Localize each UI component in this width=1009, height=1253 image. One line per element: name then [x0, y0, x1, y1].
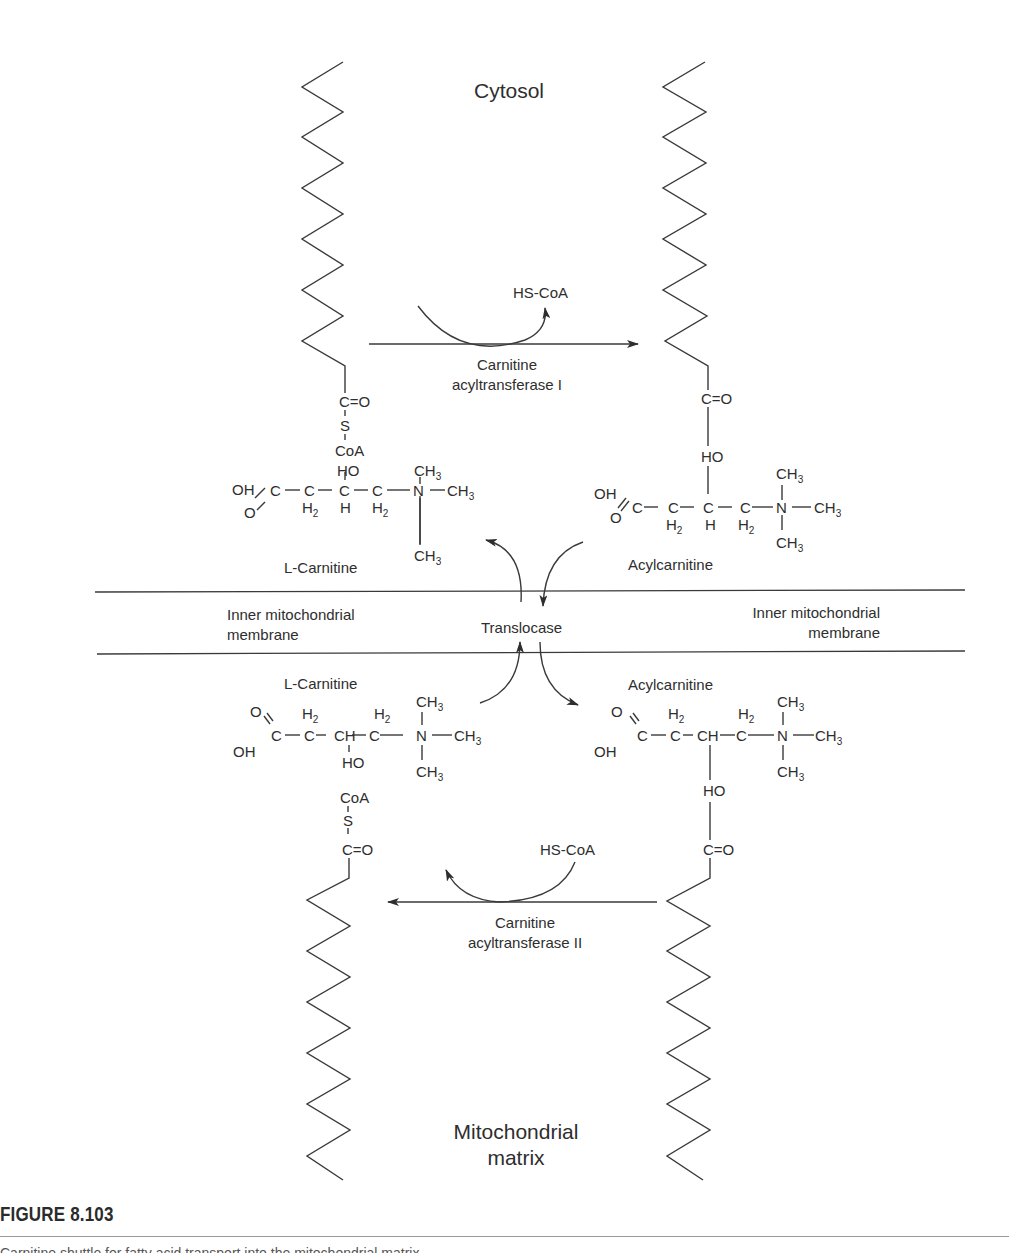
atom-n: N [416, 728, 427, 743]
atom-c: C [271, 728, 282, 743]
enzyme-cat1-line1: Carnitine [412, 355, 602, 375]
atom-h2: H2 [738, 517, 754, 532]
membrane-label-right: Inner mitochondrial membrane [705, 603, 880, 643]
atom-ch3: CH3 [447, 483, 474, 498]
atom-ch3: CH3 [414, 548, 441, 563]
matrix-acyl-coa-carbonyl: C=O [342, 842, 373, 857]
atom-ch3: CH3 [814, 500, 841, 515]
hs-coa-label-cat2: HS-CoA [540, 842, 595, 857]
enzyme-cat2-line2: acyltransferase II [430, 933, 620, 953]
atom-c: C [304, 728, 315, 743]
atom-ch3: CH3 [777, 764, 804, 779]
atom-ch: CH [697, 728, 719, 743]
enzyme-cat2: Carnitine acyltransferase II [430, 913, 620, 953]
atom-c: C [740, 500, 751, 515]
atom-c: C [668, 500, 679, 515]
atom-h: H [705, 517, 716, 532]
atom-ch3: CH3 [777, 694, 804, 709]
figure-caption: Carnitine shuttle for fatty acid transpo… [0, 1246, 423, 1253]
acyl-coa-carbonyl: C=O [339, 394, 370, 409]
acylcarnitine-cytosol-label: Acylcarnitine [628, 557, 713, 572]
atom-ch3: CH3 [414, 463, 441, 478]
atom-ch3: CH3 [454, 728, 481, 743]
atom-c: C [372, 483, 383, 498]
matrix-label-line2: matrix [450, 1147, 582, 1168]
atom-n: N [777, 728, 788, 743]
atom-ch3: CH3 [815, 728, 842, 743]
acyl-chain-matrix-left [307, 858, 350, 1180]
atom-c: C [703, 500, 714, 515]
atom-ch: CH [334, 728, 356, 743]
atom-c: C [270, 483, 281, 498]
matrix-acyl-coa-coa: CoA [340, 790, 369, 805]
atom-ch3: CH3 [416, 694, 443, 709]
atom-c: C [736, 728, 747, 743]
atom-ho: HO [337, 463, 360, 478]
atom-c: C [637, 728, 648, 743]
atom-n: N [413, 483, 424, 498]
enzyme-cat1: Carnitine acyltransferase I [412, 355, 602, 395]
cytosol-label: Cytosol [474, 80, 544, 101]
figure-divider [0, 1236, 1009, 1237]
l-carnitine-matrix-label: L-Carnitine [284, 676, 357, 691]
acylcarnitine-ester-carbonyl: C=O [701, 391, 732, 406]
acyl-chain-cytosol-right [663, 62, 708, 390]
atom-o: O [244, 505, 256, 520]
atom-c: C [339, 483, 350, 498]
figure-label: FIGURE 8.103 [0, 1203, 114, 1226]
acyl-chain-cytosol-left [302, 62, 345, 393]
atom-c: C [304, 483, 315, 498]
atom-h2: H2 [302, 500, 318, 515]
atom-ch3: CH3 [776, 535, 803, 550]
atom-n: N [776, 500, 787, 515]
atom-c: C [632, 500, 643, 515]
l-carnitine-cytosol-label: L-Carnitine [284, 560, 357, 575]
atom-ho: HO [703, 783, 726, 798]
atom-ch3: CH3 [776, 466, 803, 481]
matrix-label-line1: Mitochondrial [450, 1121, 582, 1142]
atom-o: O [610, 510, 622, 525]
atom-oh: OH [594, 744, 617, 759]
atom-ho: HO [342, 755, 365, 770]
acyl-chain-matrix-right [667, 858, 710, 1180]
atom-c: C [670, 728, 681, 743]
atom-h2: H2 [738, 706, 754, 721]
acylcarnitine-matrix-label: Acylcarnitine [628, 677, 713, 692]
acyl-coa-sulfur: S [340, 418, 350, 433]
matrix-acylcarnitine-ester-carbonyl: C=O [703, 842, 734, 857]
atom-h: H [340, 500, 351, 515]
acylcarnitine-ester-ho: HO [701, 449, 724, 464]
atom-oh: OH [233, 744, 256, 759]
atom-c: C [369, 728, 380, 743]
atom-o: O [611, 704, 623, 719]
atom-o: O [250, 704, 262, 719]
acyl-coa-coa: CoA [335, 443, 364, 458]
atom-oh: OH [232, 482, 255, 497]
membrane-label-left: Inner mitochondrial membrane [227, 605, 355, 645]
atom-h2: H2 [302, 706, 318, 721]
enzyme-cat2-line1: Carnitine [430, 913, 620, 933]
atom-h2: H2 [374, 706, 390, 721]
translocase-label: Translocase [481, 618, 562, 638]
hs-coa-label-cat1: HS-CoA [513, 285, 568, 300]
enzyme-cat1-line2: acyltransferase I [412, 375, 602, 395]
atom-h2: H2 [666, 517, 682, 532]
atom-ch3: CH3 [416, 764, 443, 779]
atom-h2: H2 [372, 500, 388, 515]
matrix-acyl-coa-sulfur: S [343, 813, 353, 828]
atom-h2: H2 [668, 706, 684, 721]
atom-oh: OH [594, 486, 617, 501]
